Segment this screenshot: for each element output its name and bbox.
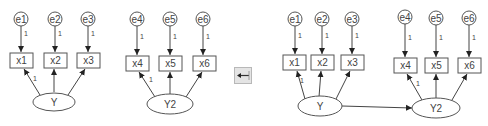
svg-text:Y: Y bbox=[317, 101, 324, 112]
arrow-left-button[interactable] bbox=[234, 67, 252, 84]
svg-text:e6: e6 bbox=[197, 14, 209, 25]
svg-text:1: 1 bbox=[325, 32, 329, 39]
svg-text:1: 1 bbox=[91, 30, 95, 37]
svg-text:1: 1 bbox=[58, 30, 62, 37]
indicator-x5[interactable]: x5 bbox=[159, 56, 182, 71]
combined-loading-y-x3 bbox=[336, 71, 350, 99]
error-e3[interactable]: e3 bbox=[81, 12, 95, 26]
svg-text:Y2: Y2 bbox=[164, 99, 177, 110]
svg-text:x5: x5 bbox=[165, 58, 176, 69]
loading-y-x3 bbox=[68, 69, 85, 95]
combined-error-e6[interactable]: e6 bbox=[462, 11, 476, 25]
svg-text:e5: e5 bbox=[430, 13, 442, 24]
svg-text:1: 1 bbox=[33, 75, 37, 82]
combined-error-e3[interactable]: e3 bbox=[345, 12, 359, 26]
combined-indicator-x1[interactable]: x1 bbox=[283, 55, 306, 70]
svg-text:e3: e3 bbox=[346, 14, 358, 25]
middle-model: e4 e5 e6 1 1 1 x4 x5 x6 1 bbox=[126, 12, 216, 114]
svg-text:e3: e3 bbox=[82, 14, 94, 25]
svg-text:1: 1 bbox=[173, 33, 177, 40]
error-e1[interactable]: e1 bbox=[14, 12, 28, 26]
svg-text:e1: e1 bbox=[15, 14, 27, 25]
svg-text:x1: x1 bbox=[16, 55, 27, 66]
svg-text:1: 1 bbox=[408, 34, 412, 41]
svg-text:x1: x1 bbox=[289, 57, 300, 68]
indicator-x3[interactable]: x3 bbox=[77, 53, 100, 68]
svg-text:Y2: Y2 bbox=[430, 103, 443, 114]
combined-loading-y2-x4 bbox=[407, 74, 422, 100]
svg-text:x3: x3 bbox=[347, 57, 358, 68]
svg-text:x4: x4 bbox=[132, 58, 143, 69]
svg-text:1: 1 bbox=[300, 77, 304, 84]
svg-text:1: 1 bbox=[416, 80, 420, 87]
svg-text:1: 1 bbox=[472, 34, 476, 41]
svg-text:x2: x2 bbox=[317, 57, 328, 68]
combined-latent-y[interactable]: Y bbox=[298, 96, 342, 116]
sem-diagram-canvas: e1 e2 e3 1 1 1 x1 x2 x3 bbox=[0, 0, 488, 126]
combined-latent-y2[interactable]: Y2 bbox=[412, 98, 460, 118]
svg-text:e2: e2 bbox=[316, 14, 328, 25]
error-e2[interactable]: e2 bbox=[48, 12, 62, 26]
error-e6[interactable]: e6 bbox=[196, 12, 210, 26]
combined-loading-y2-x6 bbox=[452, 74, 467, 100]
indicator-x2[interactable]: x2 bbox=[44, 53, 67, 68]
svg-text:e2: e2 bbox=[49, 14, 61, 25]
error-e4[interactable]: e4 bbox=[130, 12, 144, 26]
svg-text:Y: Y bbox=[51, 97, 58, 108]
indicator-x4[interactable]: x4 bbox=[126, 56, 149, 71]
combined-error-e2[interactable]: e2 bbox=[315, 12, 329, 26]
svg-text:1: 1 bbox=[439, 34, 443, 41]
combined-error-e4[interactable]: e4 bbox=[398, 10, 412, 24]
svg-text:x3: x3 bbox=[83, 55, 94, 66]
combined-indicator-x3[interactable]: x3 bbox=[341, 55, 364, 70]
svg-text:x6: x6 bbox=[464, 60, 475, 71]
svg-text:x4: x4 bbox=[400, 60, 411, 71]
loading-y2-x6 bbox=[186, 72, 202, 97]
combined-model: e1 e2 e3 e4 e5 e6 1 1 1 1 1 bbox=[283, 10, 481, 118]
svg-text:e5: e5 bbox=[164, 14, 176, 25]
svg-text:1: 1 bbox=[298, 32, 302, 39]
structural-path-y-y2 bbox=[342, 106, 412, 108]
arrow-left-icon bbox=[235, 68, 251, 83]
combined-indicator-x5[interactable]: x5 bbox=[425, 58, 448, 73]
svg-text:1: 1 bbox=[355, 32, 359, 39]
combined-error-e5[interactable]: e5 bbox=[429, 11, 443, 25]
indicator-x6[interactable]: x6 bbox=[193, 56, 216, 71]
svg-text:x5: x5 bbox=[431, 60, 442, 71]
svg-text:x6: x6 bbox=[199, 58, 210, 69]
combined-loading-y-x1 bbox=[297, 71, 305, 99]
left-model: e1 e2 e3 1 1 1 x1 x2 x3 bbox=[10, 12, 100, 111]
svg-text:e4: e4 bbox=[131, 14, 143, 25]
svg-text:x2: x2 bbox=[50, 55, 61, 66]
error-e5[interactable]: e5 bbox=[163, 12, 177, 26]
svg-text:e6: e6 bbox=[463, 13, 475, 24]
latent-y2[interactable]: Y2 bbox=[147, 94, 193, 114]
combined-indicator-x2[interactable]: x2 bbox=[311, 55, 334, 70]
indicator-x1[interactable]: x1 bbox=[10, 53, 33, 68]
latent-y[interactable]: Y bbox=[33, 93, 75, 111]
svg-text:e1: e1 bbox=[289, 14, 301, 25]
svg-text:1: 1 bbox=[24, 30, 28, 37]
combined-indicator-x4[interactable]: x4 bbox=[394, 58, 417, 73]
combined-error-e1[interactable]: e1 bbox=[288, 12, 302, 26]
svg-text:1: 1 bbox=[206, 33, 210, 40]
svg-text:e4: e4 bbox=[399, 12, 411, 23]
combined-loading-y-x2 bbox=[319, 71, 321, 97]
svg-text:1: 1 bbox=[149, 76, 153, 83]
combined-indicator-x6[interactable]: x6 bbox=[458, 58, 481, 73]
svg-text:1: 1 bbox=[140, 33, 144, 40]
loading-y-x1 bbox=[24, 69, 40, 95]
